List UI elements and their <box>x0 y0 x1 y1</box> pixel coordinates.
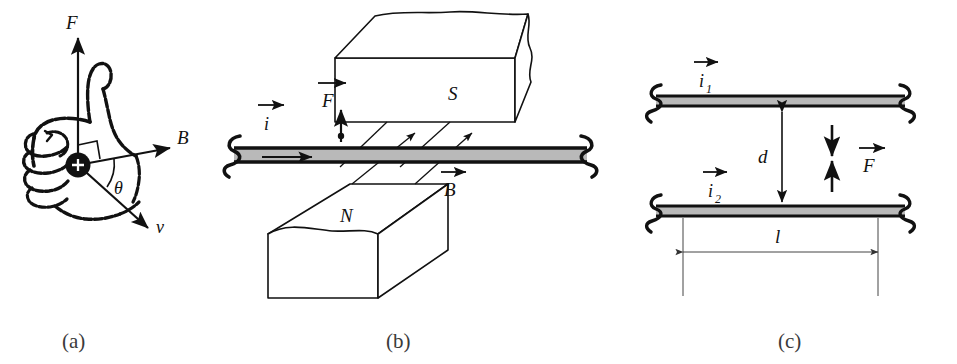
wire-bottom <box>647 195 915 232</box>
current-2-subscript: 2 <box>715 192 721 206</box>
panel-a-right-hand-rule: F B v θ (a) <box>0 0 210 364</box>
magnet-pole-south <box>335 12 532 122</box>
charge-dot <box>66 153 91 178</box>
wire-top <box>647 85 915 122</box>
angle-label-theta: θ <box>114 178 123 198</box>
field-label-b: B <box>444 179 456 200</box>
panel-b-caption: (b) <box>386 329 411 353</box>
current-label-group-b: i <box>258 105 284 134</box>
physics-figure: F B v θ (a) <box>0 0 957 364</box>
magnetic-field-vector-a <box>78 148 170 165</box>
field-label-group-b: B <box>441 172 466 200</box>
force-label-a: F <box>65 12 78 33</box>
current-1-label-group: i 1 <box>694 62 718 96</box>
panel-b-wire-between-poles: S N <box>210 0 610 364</box>
force-label-group-c: F <box>859 148 885 176</box>
length-label-l: l <box>775 226 780 247</box>
south-pole-label: S <box>448 83 458 104</box>
panel-a-caption: (a) <box>62 329 85 353</box>
separation-label-d: d <box>758 146 768 167</box>
force-origin-dot <box>338 133 344 139</box>
magnet-pole-north <box>268 184 448 298</box>
current-2-label: i <box>708 181 713 201</box>
panel-c-caption: (c) <box>778 329 801 353</box>
current-2-label-group: i 2 <box>703 172 727 206</box>
force-label-b: F <box>321 90 334 111</box>
velocity-label-a: v <box>156 217 164 237</box>
current-1-label: i <box>699 71 704 91</box>
current-label-b: i <box>264 114 269 134</box>
magnetic-field-label-a: B <box>177 127 189 148</box>
length-dimension <box>683 218 878 296</box>
north-pole-label: N <box>339 205 354 226</box>
current-1-subscript: 1 <box>706 82 712 96</box>
force-label-c: F <box>862 155 875 176</box>
current-carrying-wire <box>224 136 597 177</box>
panel-c-parallel-wires: i 1 i 2 d <box>610 0 957 364</box>
